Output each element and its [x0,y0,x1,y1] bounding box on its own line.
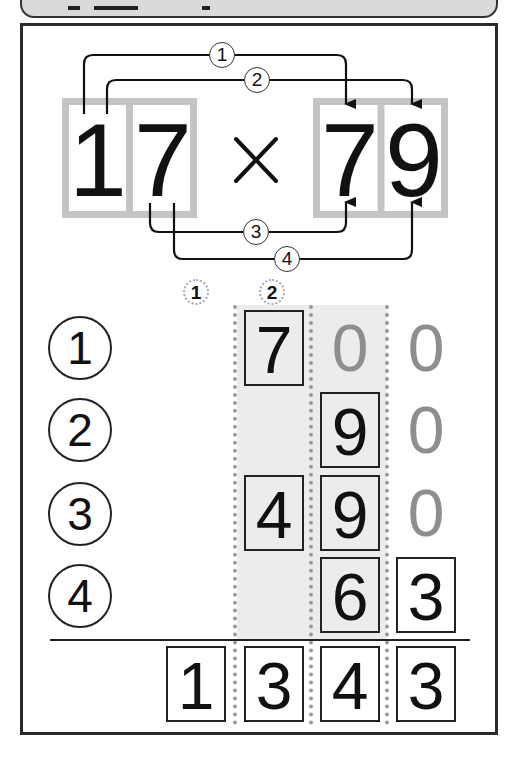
multiplicand-tens-digit: 1 [68,108,128,212]
column-guide [309,305,313,725]
result-digit: 3 [244,646,304,722]
placeholder-zero: 0 [396,310,456,386]
arrow-label-3: 3 [243,219,269,245]
column-marker-1: 1 [183,279,209,305]
arrow-label-1: 1 [209,42,235,68]
sum-line [50,639,470,641]
times-icon [236,139,276,181]
column-marker-2: 2 [259,279,285,305]
result-digit: 1 [166,646,226,722]
result-digit: 3 [396,646,456,722]
partial-digit: 9 [320,475,380,551]
partial-digit: 9 [320,392,380,468]
row-label-2: 2 [48,398,112,462]
arrow-label-2: 2 [244,67,270,93]
column-guide [233,305,237,725]
placeholder-zero: 0 [320,310,380,386]
column-guide [385,305,389,725]
multiplier-tens-digit: 7 [320,108,380,212]
partial-digit: 6 [320,557,380,633]
row-label-4: 4 [48,564,112,628]
arrow-label-4: 4 [274,246,300,272]
placeholder-zero: 0 [396,475,456,551]
row-label-3: 3 [48,482,112,546]
row-label-1: 1 [48,316,112,380]
result-digit: 4 [320,646,380,722]
multiplier-ones-digit: 9 [384,108,444,212]
partial-digit: 4 [244,475,304,551]
partial-digit: 3 [396,557,456,633]
placeholder-zero: 0 [396,392,456,468]
partial-digit: 7 [244,310,304,386]
multiplicand-ones-digit: 7 [133,108,193,212]
